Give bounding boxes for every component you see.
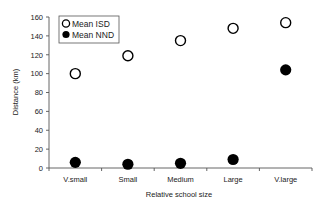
scatter-chart: 020406080100120140160 V.smallSmallMedium… — [0, 0, 315, 208]
isd-point — [281, 18, 291, 28]
y-axis: 020406080100120140160 — [30, 13, 49, 173]
y-tick-label: 120 — [30, 51, 43, 60]
x-tick-label: Small — [119, 175, 138, 184]
legend-label-isd: Mean ISD — [72, 19, 110, 29]
filled-circle-icon — [62, 31, 69, 38]
y-tick-label: 0 — [39, 164, 43, 173]
legend: Mean ISD Mean NND — [59, 16, 119, 43]
x-tick-label: Medium — [167, 175, 194, 184]
y-tick-label: 80 — [35, 88, 43, 97]
nnd-point — [228, 154, 239, 165]
x-axis: V.smallSmallMediumLargeV.large — [49, 168, 312, 184]
isd-point — [228, 23, 238, 33]
y-tick-label: 140 — [30, 32, 43, 41]
isd-point — [123, 51, 133, 61]
chart-canvas: 020406080100120140160 V.smallSmallMedium… — [0, 0, 315, 208]
y-tick-label: 40 — [35, 126, 43, 135]
nnd-point — [280, 64, 291, 75]
isd-point — [70, 69, 80, 79]
x-axis-label: Relative school size — [146, 190, 212, 199]
x-tick-label: Large — [224, 175, 243, 184]
isd-point — [176, 36, 186, 46]
legend-label-nnd: Mean NND — [72, 30, 114, 40]
y-axis-label: Distance (km) — [11, 68, 20, 115]
y-tick-label: 160 — [30, 13, 43, 22]
nnd-point — [70, 157, 81, 168]
x-tick-label: V.large — [274, 175, 297, 184]
y-tick-label: 60 — [35, 107, 43, 116]
open-circle-icon — [62, 20, 69, 27]
nnd-point — [122, 159, 133, 170]
nnd-point — [175, 158, 186, 169]
y-tick-label: 20 — [35, 145, 43, 154]
x-tick-label: V.small — [63, 175, 87, 184]
y-tick-label: 100 — [30, 69, 43, 78]
